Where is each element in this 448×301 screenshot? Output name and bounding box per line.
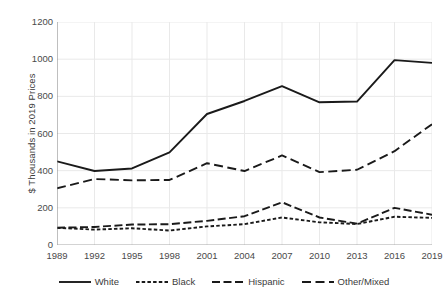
legend-label-black: Black [172, 276, 195, 287]
line-chart-svg [57, 22, 432, 245]
chart-figure: $ Thousands in 2019 Prices 0200400600800… [0, 0, 448, 301]
legend-label-hispanic: Hispanic [248, 276, 284, 287]
legend-label-other-mixed: Other/Mixed [338, 276, 390, 287]
legend-item-black[interactable]: Black [136, 276, 195, 287]
legend-item-white[interactable]: White [59, 276, 119, 287]
legend-swatch-white [59, 277, 91, 287]
legend-swatch-black [136, 277, 168, 287]
legend-item-hispanic[interactable]: Hispanic [212, 276, 284, 287]
legend-label-white: White [95, 276, 119, 287]
plot-area [57, 22, 432, 245]
legend-swatch-hispanic [212, 277, 244, 287]
x-tick-label: 2019 [409, 250, 448, 261]
legend-swatch-other-mixed [302, 277, 334, 287]
legend-item-other-mixed[interactable]: Other/Mixed [302, 276, 390, 287]
chart-legend: WhiteBlackHispanicOther/Mixed [0, 276, 448, 287]
